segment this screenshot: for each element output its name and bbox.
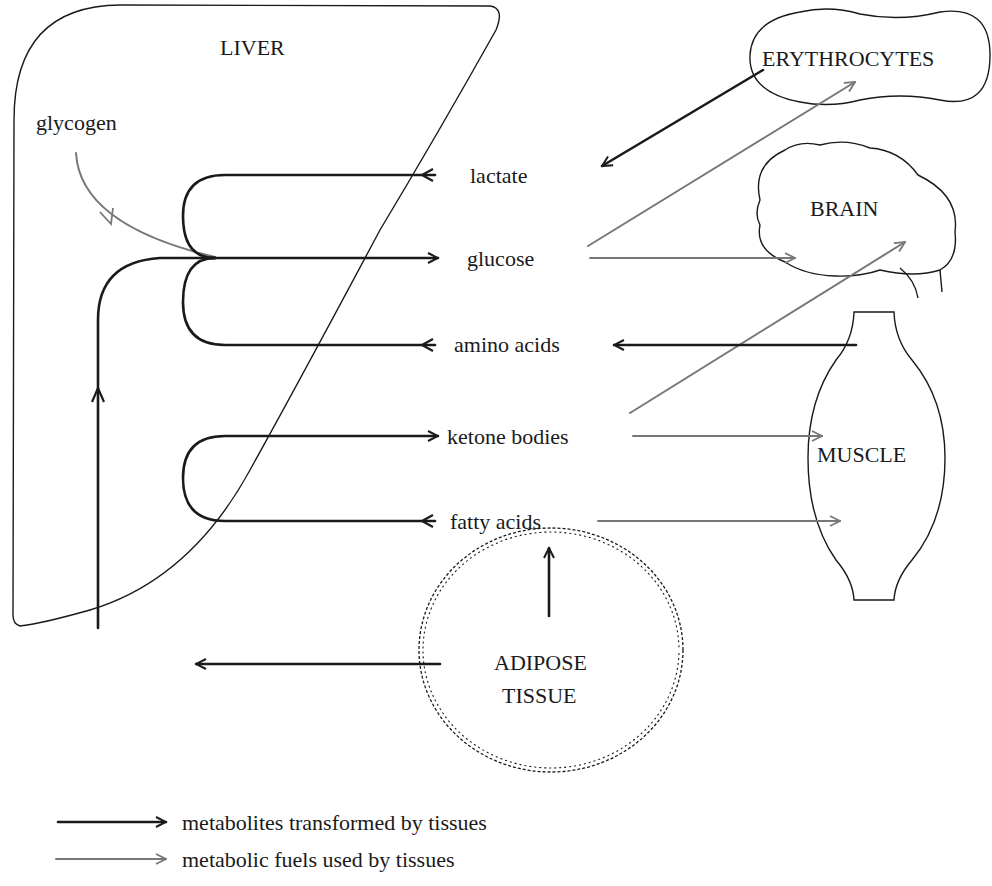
muscle-label: MUSCLE xyxy=(817,442,906,467)
brainstem-outline xyxy=(900,268,942,298)
glycogen-label: glycogen xyxy=(36,110,117,135)
fatty-acids-to-ketone-loop xyxy=(183,436,438,521)
glucose-to-erythrocytes-arrow xyxy=(588,82,855,246)
erythrocytes-to-lactate-arrow xyxy=(602,70,763,166)
lactate-label: lactate xyxy=(470,163,527,188)
ketone-to-brain-arrow xyxy=(630,242,905,413)
ketone-bodies-label: ketone bodies xyxy=(447,424,569,449)
erythrocytes-label: ERYTHROCYTES xyxy=(762,46,934,71)
fatty-acids-label: fatty acids xyxy=(450,509,541,534)
glucose-label: glucose xyxy=(467,246,534,271)
liver-outline xyxy=(13,5,499,626)
brain-label: BRAIN xyxy=(810,196,879,221)
legend-transformed-label: metabolites transformed by tissues xyxy=(182,810,487,835)
legend-fuels-label: metabolic fuels used by tissues xyxy=(182,847,455,872)
amino-acids-label: amino acids xyxy=(454,332,560,357)
adipose-label-line1: ADIPOSE xyxy=(494,650,587,675)
amino-acids-to-glucose-loop xyxy=(183,258,435,345)
glycogen-to-glucose-arrow xyxy=(76,153,215,257)
liver-label: LIVER xyxy=(220,35,285,60)
lactate-to-glucose-loop xyxy=(183,175,435,258)
adipose-label-line2: TISSUE xyxy=(502,683,577,708)
metabolic-flow-diagram: LIVER glycogen lactate glucose amino aci… xyxy=(0,0,992,886)
